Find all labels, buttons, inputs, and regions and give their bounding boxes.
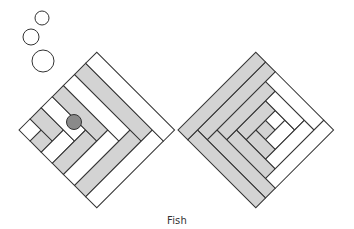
bubble-1 [35,11,49,25]
bubbles [23,11,54,72]
bubble-2 [23,29,39,45]
fish-body-block [19,52,175,208]
figure-caption: Fish [0,215,354,226]
fish-eye [67,115,82,130]
eye-dot [67,115,82,130]
fish-tail-block [178,52,334,208]
fish-quilt-diagram [0,0,354,229]
bubble-3 [32,50,54,72]
